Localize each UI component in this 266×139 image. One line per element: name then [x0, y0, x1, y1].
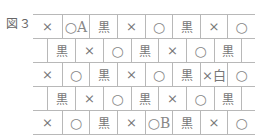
cell-batsu: × — [33, 63, 62, 86]
cell-half — [33, 39, 47, 62]
cell-batsu: × — [33, 15, 62, 38]
cell-maru: ○ — [103, 39, 131, 62]
cell-maru: ○ — [227, 15, 255, 38]
cell-batsu: × — [75, 87, 103, 110]
cell-maru: ○ — [186, 39, 214, 62]
grid-row-2: 黒 × ○ 黒 × ○ 黒 — [33, 38, 255, 62]
grid-row-4: 黒 × ○ 黒 × ○ 黒 — [33, 86, 255, 110]
cell-batsu: × — [200, 15, 227, 38]
cell-batsu: × — [117, 15, 145, 38]
cell-half — [241, 39, 255, 62]
cell-kuro: 黒 — [172, 111, 200, 134]
cell-kuro: 黒 — [89, 63, 117, 86]
cell-maru-a: ○A — [62, 15, 89, 38]
cell-maru-b: ○B — [145, 111, 172, 134]
cell-kuro: 黒 — [214, 87, 241, 110]
cell-maru: ○ — [62, 63, 89, 86]
cell-half — [33, 87, 47, 110]
cell-batsu: × — [33, 111, 62, 134]
brick-grid: × ○A 黒 × ○ 黒 × ○ 黒 × ○ 黒 × ○ 黒 × ○ 黒 × ○… — [33, 14, 255, 135]
cell-batsu: × — [117, 111, 145, 134]
cell-half — [241, 87, 255, 110]
cell-maru: ○ — [227, 63, 255, 86]
grid-row-5: × ○ 黒 × ○B 黒 × ○ — [33, 110, 255, 135]
cell-kuro: 黒 — [172, 15, 200, 38]
cell-kuro: 黒 — [47, 39, 75, 62]
cell-kuro: 黒 — [89, 15, 117, 38]
figure-label: 図３ — [6, 14, 32, 31]
cell-kuro: 黒 — [131, 39, 158, 62]
cell-batsu: × — [117, 63, 145, 86]
grid-row-1: × ○A 黒 × ○ 黒 × ○ — [33, 14, 255, 38]
cell-maru: ○ — [186, 87, 214, 110]
cell-maru: ○ — [62, 111, 89, 134]
cell-batsu: × — [75, 39, 103, 62]
grid-row-3: × ○ 黒 × ○ 黒 ×白 ○ — [33, 62, 255, 86]
cell-maru: ○ — [227, 111, 255, 134]
cell-maru: ○ — [145, 15, 172, 38]
cell-kuro: 黒 — [172, 63, 200, 86]
cell-kuro: 黒 — [47, 87, 75, 110]
cell-maru: ○ — [145, 63, 172, 86]
cell-batsu: × — [158, 87, 186, 110]
cell-batsu: × — [200, 111, 227, 134]
cell-kuro: 黒 — [89, 111, 117, 134]
cell-kuro: 黒 — [214, 39, 241, 62]
cell-batsu: × — [158, 39, 186, 62]
cell-kuro: 黒 — [131, 87, 158, 110]
cell-maru: ○ — [103, 87, 131, 110]
cell-batsu-white: ×白 — [200, 63, 227, 86]
